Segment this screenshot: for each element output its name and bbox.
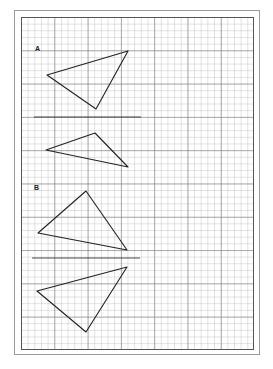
triangle-a-reflection [46, 133, 128, 167]
triangle-b-original [38, 191, 127, 250]
reflection-drawing [0, 0, 273, 369]
triangle-a-original [47, 51, 128, 109]
triangle-b-reflection [37, 267, 127, 332]
